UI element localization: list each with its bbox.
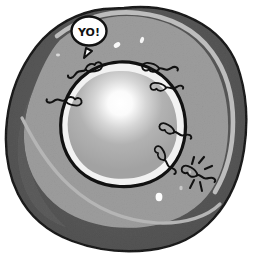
vesicle-3 (156, 193, 163, 201)
vesicle-4 (56, 54, 60, 57)
cell-illustration: YO! (0, 0, 254, 255)
vesicle-6 (189, 170, 192, 173)
illustration-canvas: YO! (0, 0, 254, 255)
vesicle-5 (179, 186, 182, 190)
speech-bubble-text: YO! (77, 26, 100, 39)
